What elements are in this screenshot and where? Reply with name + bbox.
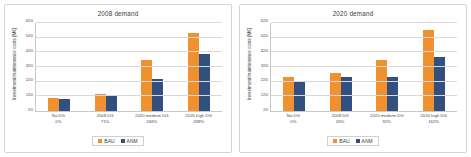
bar-anm: [59, 99, 70, 111]
x-tick-label-percent: 246%: [129, 119, 176, 125]
x-tick-label-percent: 92%: [364, 119, 411, 125]
y-tick-label: 220: [26, 78, 33, 82]
y-axis-title: Investment/maintenance costs [M€]: [10, 21, 19, 107]
legend-label-bau: BAU: [339, 138, 349, 144]
gridline: [36, 51, 222, 52]
x-axis-tick-labels: No DG0%2008 DG26%2020 medium DG92%2020 h…: [270, 113, 457, 130]
legend-label-bau: BAU: [104, 138, 114, 144]
gridline: [36, 81, 222, 82]
y-axis-tick-labels: 20120220320420520620: [21, 23, 34, 112]
gridline: [36, 95, 222, 96]
x-tick-label-percent: 0%: [270, 119, 317, 125]
legend-box: BAU ANM: [92, 136, 143, 146]
x-tick-label-percent: 71%: [82, 119, 129, 125]
legend-swatch-bau-icon: [98, 139, 102, 143]
x-tick-label-percent: 438%: [175, 119, 222, 125]
plot-area-wrapper: 20120220320420520620: [256, 23, 457, 112]
gridline: [271, 95, 457, 96]
gridline: [36, 22, 222, 23]
chart-title: 2008 demand: [5, 10, 231, 17]
y-tick-label: 20: [263, 108, 268, 112]
y-tick-label: 320: [261, 64, 268, 68]
legend-item-bau: BAU: [98, 138, 114, 144]
legend-swatch-anm-icon: [356, 139, 360, 143]
bar-bau: [48, 98, 59, 111]
chart-frame: 2008 demand Investment/maintenance costs…: [4, 4, 232, 153]
gridline: [36, 66, 222, 67]
legend-swatch-anm-icon: [121, 139, 125, 143]
x-tick-label: 2008 DG26%: [317, 113, 364, 126]
bar-bau: [423, 30, 434, 111]
bar-bau: [188, 33, 199, 111]
plot-area-wrapper: 20120220320420520620: [21, 23, 222, 112]
x-tick-label: 2020 medium DG92%: [364, 113, 411, 126]
bar-bau: [283, 77, 294, 111]
y-axis-tick-labels: 20120220320420520620: [256, 23, 269, 112]
legend: BAU ANM: [240, 136, 466, 146]
y-tick-label: 320: [26, 64, 33, 68]
x-tick-label: 2008 DG71%: [82, 113, 129, 126]
chart-panel-2008: 2008 demand Investment/maintenance costs…: [0, 0, 235, 157]
chart-frame: 2020 demand Investment/maintenance costs…: [239, 4, 467, 153]
y-tick-label: 520: [26, 34, 33, 38]
y-tick-label: 120: [26, 93, 33, 97]
gridline: [271, 51, 457, 52]
chart-panel-2020: 2020 demand Investment/maintenance costs…: [235, 0, 470, 157]
bar-anm: [341, 77, 352, 111]
gridline: [271, 37, 457, 38]
bar-bau: [376, 60, 387, 111]
bar-anm: [199, 54, 210, 111]
plot-area: [35, 23, 222, 112]
dual-bar-chart-figure: 2008 demand Investment/maintenance costs…: [0, 0, 471, 157]
gridline: [271, 22, 457, 23]
gridline: [271, 66, 457, 67]
x-tick-label: 2020 high DG162%: [410, 113, 457, 126]
legend-label-anm: ANM: [362, 138, 373, 144]
bar-bau: [330, 73, 341, 111]
y-tick-label: 620: [261, 19, 268, 23]
legend: BAU ANM: [5, 136, 231, 146]
bar-bau: [141, 60, 152, 111]
x-tick-label: 2020 medium DG246%: [129, 113, 176, 126]
x-tick-label-percent: 162%: [410, 119, 457, 125]
legend-item-anm: ANM: [121, 138, 138, 144]
chart-title: 2020 demand: [240, 10, 466, 17]
bar-anm: [106, 96, 117, 111]
y-tick-label: 420: [26, 49, 33, 53]
y-axis-title: Investment/maintenance costs [M€]: [245, 21, 254, 107]
y-tick-label: 520: [261, 34, 268, 38]
legend-label-anm: ANM: [127, 138, 138, 144]
bar-anm: [387, 77, 398, 111]
y-tick-label: 20: [28, 108, 33, 112]
x-tick-label-percent: 26%: [317, 119, 364, 125]
x-tick-label: 2020 high DG438%: [175, 113, 222, 126]
y-tick-label: 420: [261, 49, 268, 53]
gridline: [271, 81, 457, 82]
plot-area: [270, 23, 457, 112]
gridline: [36, 37, 222, 38]
x-tick-label: No DG0%: [35, 113, 82, 126]
x-axis-tick-labels: No DG0%2008 DG71%2020 medium DG246%2020 …: [35, 113, 222, 130]
y-tick-label: 620: [26, 19, 33, 23]
legend-box: BAU ANM: [327, 136, 378, 146]
x-tick-label: No DG0%: [270, 113, 317, 126]
legend-item-anm: ANM: [356, 138, 373, 144]
y-tick-label: 220: [261, 78, 268, 82]
y-tick-label: 120: [261, 93, 268, 97]
legend-swatch-bau-icon: [333, 139, 337, 143]
x-tick-label-percent: 0%: [35, 119, 82, 125]
legend-item-bau: BAU: [333, 138, 349, 144]
